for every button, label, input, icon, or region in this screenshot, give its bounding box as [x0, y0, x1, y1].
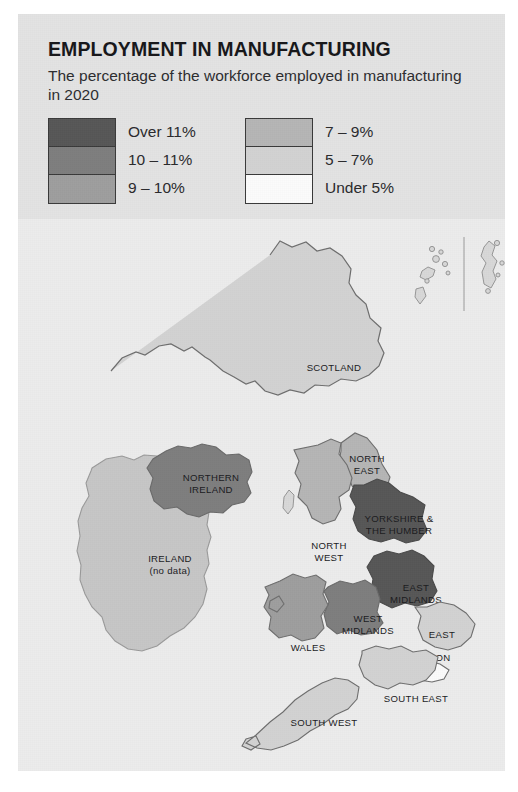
legend-swatch-stack-right — [245, 118, 313, 204]
region-wales[interactable] — [264, 574, 328, 641]
region-label-east-midlands-line1: EAST — [403, 582, 429, 593]
legend-swatch-10-11 — [49, 147, 115, 175]
legend-label-stack-right: 7 – 9% 5 – 7% Under 5% — [325, 118, 455, 202]
card-header: EMPLOYMENT IN MANUFACTURING The percenta… — [18, 14, 505, 219]
region-label-scotland: SCOTLAND — [307, 362, 362, 373]
region-label-north-east-line1: NORTH — [349, 453, 384, 464]
region-label-northern-ireland-line2: IRELAND — [189, 484, 233, 495]
legend-swatch-7-9 — [246, 119, 312, 147]
legend-swatch-9-10 — [49, 175, 115, 203]
region-label-yorkshire-line1: YORKSHIRE & — [365, 513, 434, 524]
region-label-north-west-line1: NORTH — [311, 540, 346, 551]
legend-label-stack-left: Over 11% 10 – 11% 9 – 10% — [128, 118, 258, 202]
legend-swatch-under-5 — [246, 175, 312, 203]
region-label-west-midlands-line1: WEST — [354, 613, 383, 624]
uk-choropleth-map: IRELAND (no data) NORTHERN IRELAND SCOTL… — [18, 219, 505, 771]
region-label-northern-ireland-line1: NORTHERN — [183, 472, 240, 483]
region-label-ireland-line2: (no data) — [149, 565, 190, 576]
region-label-ireland-line1: IRELAND — [148, 553, 192, 564]
map-card: EMPLOYMENT IN MANUFACTURING The percenta… — [18, 14, 505, 771]
legend-swatch-over-11 — [49, 119, 115, 147]
region-label-north-east-line2: EAST — [354, 465, 380, 476]
region-label-yorkshire-line2: THE HUMBER — [366, 525, 432, 536]
legend-swatch-stack-left — [48, 118, 116, 204]
region-label-wales: WALES — [291, 642, 326, 653]
legend-label-9-10: 9 – 10% — [128, 174, 258, 202]
region-label-south-east: SOUTH EAST — [384, 693, 448, 704]
legend-label-under-5: Under 5% — [325, 174, 455, 202]
region-label-east-midlands-line2: MIDLANDS — [390, 594, 442, 605]
map-area: IRELAND (no data) NORTHERN IRELAND SCOTL… — [18, 219, 505, 771]
region-label-north-west-line2: WEST — [315, 552, 344, 563]
region-label-south-west: SOUTH WEST — [291, 717, 358, 728]
legend-label-over-11: Over 11% — [128, 118, 258, 146]
legend-swatch-5-7 — [246, 147, 312, 175]
region-label-east: EAST — [429, 629, 455, 640]
legend-label-10-11: 10 – 11% — [128, 146, 258, 174]
region-label-west-midlands-line2: MIDLANDS — [342, 625, 394, 636]
legend-label-5-7: 5 – 7% — [325, 146, 455, 174]
legend-label-7-9: 7 – 9% — [325, 118, 455, 146]
legend: Over 11% 10 – 11% 9 – 10% 7 – 9% 5 – 7% … — [18, 14, 505, 219]
